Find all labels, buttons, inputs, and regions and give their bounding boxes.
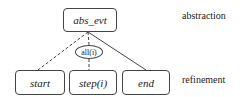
child-node-step: step(i) — [69, 70, 117, 95]
combinator-node: all(i) — [75, 45, 103, 59]
root-event-node: abs_evt — [63, 8, 117, 32]
combinator-label: all(i) — [81, 48, 97, 57]
child-label-start: start — [30, 77, 50, 89]
child-node-end: end — [122, 70, 170, 95]
child-node-start: start — [15, 70, 65, 95]
edge-root-to-combinator — [88, 32, 89, 45]
root-event-label: abs_evt — [73, 14, 107, 26]
level-label-refinement: refinement — [182, 74, 225, 85]
refinement-diagram: abs_evt all(i) start step(i) end abstrac… — [0, 0, 240, 97]
child-label-end: end — [138, 77, 154, 89]
child-label-step: step(i) — [79, 77, 107, 89]
level-label-abstraction: abstraction — [182, 10, 226, 21]
